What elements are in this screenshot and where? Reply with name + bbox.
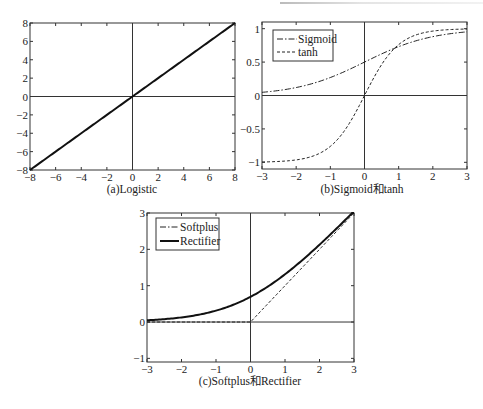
y-tick-label: −0.5 <box>240 123 260 135</box>
chart-b-sigmoid-tanh: −3−2−10123−1−0.500.51 Sigmoid tanh (b)Si… <box>240 22 470 196</box>
y-tick-label: 8 <box>23 17 29 29</box>
chart-c-softplus-rectifier: −3−2−10123−10123 Softplus Rectifier (c)S… <box>133 207 357 388</box>
chart-b-legend: Sigmoid tanh <box>273 30 337 61</box>
y-tick-label: 2 <box>23 72 29 84</box>
figure-canvas: −8−6−4−202468−8−6−4−202468 (a)Logistic −… <box>0 0 483 409</box>
x-tick-label: −3 <box>141 363 153 375</box>
x-tick-label: 3 <box>464 170 470 182</box>
y-tick-label: 2 <box>140 243 146 255</box>
y-tick-label: 6 <box>23 35 29 47</box>
x-tick-label: −3 <box>256 170 268 182</box>
x-tick-label: −1 <box>324 170 336 182</box>
x-tick-label: 0 <box>130 171 136 183</box>
y-tick-label: −4 <box>16 127 28 139</box>
x-tick-label: 1 <box>282 363 288 375</box>
legend-tanh-label: tanh <box>298 46 318 58</box>
x-tick-label: 1 <box>396 170 402 182</box>
x-tick-label: 3 <box>351 363 357 375</box>
chart-c-caption: (c)Softplus和Rectifier <box>199 375 302 388</box>
x-tick-label: 0 <box>362 170 368 182</box>
x-tick-label: −6 <box>50 171 62 183</box>
y-tick-label: 0.5 <box>246 56 260 68</box>
x-tick-label: 2 <box>317 363 323 375</box>
y-tick-label: 3 <box>140 207 146 219</box>
x-tick-label: −2 <box>101 171 113 183</box>
x-tick-label: 6 <box>207 171 213 183</box>
chart-c-legend: Softplus Rectifier <box>156 218 220 250</box>
chart-a-caption: (a)Logistic <box>107 183 157 196</box>
x-tick-label: 2 <box>155 171 161 183</box>
y-tick-label: −1 <box>133 352 145 364</box>
y-tick-label: 0 <box>255 90 261 102</box>
x-tick-label: −1 <box>210 363 222 375</box>
x-tick-label: −4 <box>75 171 87 183</box>
legend-rectifier-label: Rectifier <box>180 235 220 247</box>
legend-softplus-label: Softplus <box>180 221 219 234</box>
x-tick-label: 4 <box>181 171 187 183</box>
chart-a-logistic: −8−6−4−202468−8−6−4−202468 (a)Logistic <box>16 17 238 196</box>
x-tick-label: 2 <box>430 170 436 182</box>
y-tick-label: 4 <box>23 54 29 66</box>
chart-b-caption: (b)Sigmoid和tanh <box>320 183 403 196</box>
y-tick-label: 0 <box>23 91 29 103</box>
x-tick-label: 8 <box>232 171 238 183</box>
y-tick-label: −2 <box>16 109 28 121</box>
y-tick-label: 1 <box>140 280 146 292</box>
y-tick-label: 0 <box>140 316 146 328</box>
x-tick-label: 0 <box>248 363 254 375</box>
x-tick-label: −2 <box>290 170 302 182</box>
y-tick-label: 1 <box>255 23 261 35</box>
x-tick-label: −2 <box>176 363 188 375</box>
y-tick-label: −8 <box>16 164 28 176</box>
y-tick-label: −1 <box>248 156 260 168</box>
y-tick-label: −6 <box>16 146 28 158</box>
legend-sigmoid-label: Sigmoid <box>298 33 337 46</box>
